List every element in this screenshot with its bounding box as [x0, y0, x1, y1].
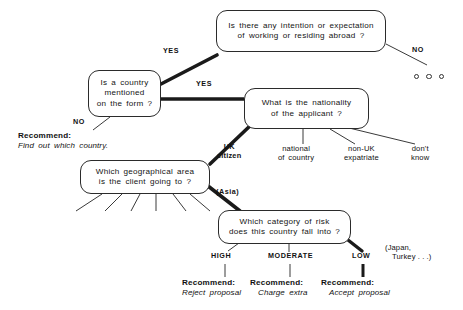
- edge-risk-low-diag: [348, 240, 362, 251]
- annotation-low-examples-line1: (Japan,: [385, 243, 431, 252]
- branch-label-uk-citizen-line2: citizen: [217, 152, 241, 161]
- continuation-dot-1: [414, 74, 419, 79]
- recommendation-accept-body: Accept proposal: [321, 288, 390, 298]
- recommendation-reject: Recommend: Reject proposal: [182, 278, 241, 298]
- recommendation-find-country: Recommend: Find out which country.: [18, 131, 108, 151]
- recommendation-reject-body: Reject proposal: [182, 288, 241, 298]
- recommendation-accept-head: Recommend:: [321, 278, 390, 288]
- branch-label-nonuk-line2: expatriate: [344, 153, 379, 162]
- branch-label-dont-know: don't know: [411, 144, 429, 163]
- branch-label-non-uk-expatriate: non-UK expatriate: [344, 144, 379, 163]
- branch-label-national-line2: of country: [278, 153, 314, 162]
- branch-label-uk-citizen: UK citizen: [217, 143, 241, 160]
- edge-nationality-dontknow: [345, 127, 415, 144]
- node-nationality-line1: What is the nationality: [262, 98, 352, 109]
- recommendation-charge-head: Recommend:: [250, 278, 307, 288]
- node-intention-line1: Is there any intention or expectation: [228, 21, 373, 32]
- edge-geography-branch-1: [76, 194, 102, 211]
- branch-label-yes-lower: YES: [196, 80, 212, 89]
- continuation-dot-2: [426, 74, 431, 79]
- branch-label-no-left: NO: [73, 118, 85, 127]
- node-geographical-area-question[interactable]: Which geographical area is the client go…: [80, 160, 210, 194]
- edge-geography-branch-6: [190, 194, 210, 211]
- branch-label-nonuk-line1: non-UK: [344, 144, 379, 153]
- decision-tree-diagram: Is there any intention or expectation of…: [0, 0, 463, 310]
- node-country-mentioned-question[interactable]: Is a country mentioned on the form ?: [88, 70, 161, 117]
- edge-nationality-nonuk: [330, 129, 355, 144]
- recommendation-reject-head: Recommend:: [182, 278, 241, 288]
- node-risk-line2: does this country fall into ?: [229, 227, 340, 238]
- node-nationality-question[interactable]: What is the nationality of the applicant…: [244, 88, 369, 129]
- node-risk-line1: Which category of risk: [240, 217, 330, 228]
- branch-label-moderate: MODERATE: [268, 252, 313, 261]
- recommendation-find-country-body: Find out which country.: [18, 141, 108, 151]
- annotation-low-examples-line2: Turkey . . .): [385, 252, 431, 261]
- recommendation-accept: Recommend: Accept proposal: [321, 278, 390, 298]
- node-geography-line1: Which geographical area: [96, 167, 194, 178]
- branch-label-asia: (Asia): [216, 188, 239, 197]
- branch-label-dontknow-line1: don't: [411, 144, 429, 153]
- annotation-low-risk-examples: (Japan, Turkey . . .): [385, 243, 431, 262]
- edge-geography-branch-3: [131, 194, 140, 211]
- edge-geography-branch-2: [105, 194, 122, 211]
- continuation-dot-3: [439, 74, 444, 79]
- node-country-line2: mentioned: [104, 88, 144, 99]
- recommendation-charge-extra: Recommend: Charge extra: [250, 278, 307, 298]
- node-nationality-line2: of the applicant ?: [271, 109, 342, 120]
- node-country-line1: Is a country: [100, 78, 148, 89]
- recommendation-find-country-head: Recommend:: [18, 131, 108, 141]
- branch-label-yes-upper: YES: [163, 47, 179, 56]
- edge-risk-high-diag: [228, 243, 239, 251]
- node-intention-question[interactable]: Is there any intention or expectation of…: [216, 10, 386, 52]
- edge-country-no: [93, 117, 110, 130]
- continuation-dots: [414, 74, 444, 79]
- branch-label-no-top-right: NO: [412, 46, 424, 55]
- branch-label-dontknow-line2: know: [411, 153, 429, 162]
- node-country-line3: on the form ?: [97, 99, 153, 110]
- recommendation-charge-body: Charge extra: [250, 288, 307, 298]
- branch-label-national-line1: national: [278, 144, 314, 153]
- node-geography-line2: is the client going to ?: [99, 177, 191, 188]
- node-intention-line2: of working or residing abroad ?: [238, 31, 365, 42]
- branch-label-high: HIGH: [211, 252, 231, 261]
- edge-geography-branch-5: [173, 194, 186, 211]
- branch-label-national-of-country: national of country: [278, 144, 314, 163]
- branch-label-low: LOW: [352, 252, 370, 261]
- node-risk-category-question[interactable]: Which category of risk does this country…: [218, 210, 351, 244]
